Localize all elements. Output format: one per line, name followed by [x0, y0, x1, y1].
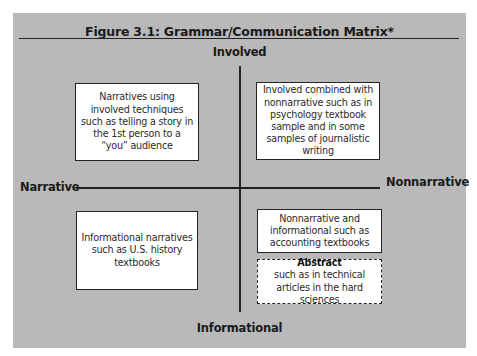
axis-label-informational: Informational	[13, 321, 466, 335]
quadrant-box-bottom-right: Nonnarrative and informational such as a…	[257, 209, 382, 253]
title-divider	[19, 38, 459, 39]
quadrant-box-bottom-left: Informational narratives such as U.S. hi…	[76, 211, 198, 290]
quadrant-box-top-right: Involved combined with nonnarrative such…	[256, 82, 380, 160]
axis-label-narrative: Narrative	[20, 180, 79, 194]
quadrant-box-top-left: Narratives using involved techniques suc…	[75, 83, 199, 161]
axis-label-involved: Involved	[13, 45, 466, 59]
abstract-text: such as in technical articles in the har…	[258, 269, 381, 306]
axis-label-nonnarrative: Nonnarrative	[386, 175, 469, 189]
quadrant-text-bottom-right: Nonnarrative and informational such as a…	[258, 213, 381, 250]
abstract-heading: Abstract	[297, 257, 341, 269]
quadrant-text-bottom-left: Informational narratives such as U.S. hi…	[77, 232, 197, 269]
vertical-axis-line	[239, 66, 241, 312]
horizontal-axis-line	[76, 187, 380, 189]
quadrant-text-top-left: Narratives using involved techniques suc…	[76, 91, 198, 152]
abstract-box: Abstract such as in technical articles i…	[257, 259, 382, 304]
figure-panel: Figure 3.1: Grammar/Communication Matrix…	[13, 13, 466, 348]
quadrant-text-top-right: Involved combined with nonnarrative such…	[257, 84, 379, 157]
figure-title: Figure 3.1: Grammar/Communication Matrix…	[13, 24, 466, 39]
